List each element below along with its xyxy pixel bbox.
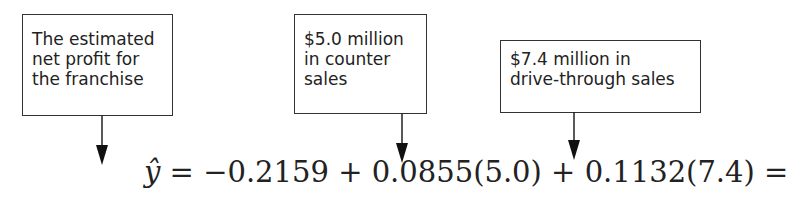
counter-sales-callout: $5.0 million in counter sales (294, 14, 427, 114)
drive-through-sales-callout: $7.4 million in drive-through sales (500, 40, 701, 113)
y-hat: ŷ (144, 155, 160, 189)
equals-sign: = (160, 155, 203, 189)
callout-line: drive-through sales (510, 69, 692, 89)
result: = $1.05 million (755, 155, 795, 189)
callout-line: sales (304, 69, 418, 89)
callout-line: The estimated (32, 29, 164, 49)
callout-line: in counter (304, 49, 418, 69)
net-profit-callout: The estimated net profit for the franchi… (22, 14, 173, 116)
drive-through-term: + 0.1132(7.4) (542, 155, 755, 189)
counter-term: + 0.0855(5.0) (329, 155, 542, 189)
callout-line: net profit for (32, 49, 164, 69)
regression-equation: ŷ = −0.2159 + 0.0855(5.0) + 0.1132(7.4) … (144, 155, 795, 189)
callout-line: the franchise (32, 69, 164, 89)
intercept: −0.2159 (203, 155, 329, 189)
arrow-down-icon (94, 115, 110, 167)
callout-line: $7.4 million in (510, 49, 692, 69)
callout-line: $5.0 million (304, 29, 418, 49)
